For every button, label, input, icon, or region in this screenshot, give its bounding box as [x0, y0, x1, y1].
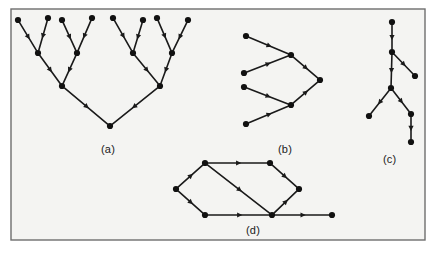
graph-node [202, 212, 208, 218]
graph-node [288, 52, 294, 58]
graph-node [388, 85, 394, 91]
graph-node [59, 83, 65, 89]
graph-node [243, 121, 249, 127]
graph-node [107, 123, 113, 129]
graph-node [412, 73, 418, 79]
graph-node [89, 15, 95, 21]
panel-caption-d: (d) [246, 224, 260, 236]
graph-node [241, 84, 247, 90]
graph-node [169, 50, 175, 56]
graph-node [154, 15, 160, 21]
graph-node [202, 160, 208, 166]
panel-caption-b: (b) [278, 143, 292, 155]
graph-node [241, 70, 247, 76]
graph-node [59, 17, 65, 23]
graph-node [267, 160, 273, 166]
graph-node [110, 15, 116, 21]
graph-node [329, 212, 335, 218]
graph-node [140, 17, 146, 23]
graph-node [296, 186, 302, 192]
graph-node [185, 17, 191, 23]
panel-caption-c: (c) [383, 153, 396, 165]
graph-node [157, 83, 163, 89]
graph-node [35, 50, 41, 56]
graph-node [130, 50, 136, 56]
graph-node [389, 49, 395, 55]
graph-node [15, 17, 21, 23]
graph-node [317, 77, 323, 83]
graph-node [74, 50, 80, 56]
graph-node [269, 212, 275, 218]
panel-caption-a: (a) [101, 143, 115, 155]
graph-node [408, 139, 414, 145]
graph-node [366, 113, 372, 119]
graph-node [408, 111, 414, 117]
graph-node [389, 19, 395, 25]
graph-node [45, 15, 51, 21]
graph-node [243, 33, 249, 39]
graph-node [173, 186, 179, 192]
figure-canvas [0, 0, 440, 255]
figure-root: (a) (b) (c) (d) [0, 0, 440, 255]
graph-node [288, 102, 294, 108]
